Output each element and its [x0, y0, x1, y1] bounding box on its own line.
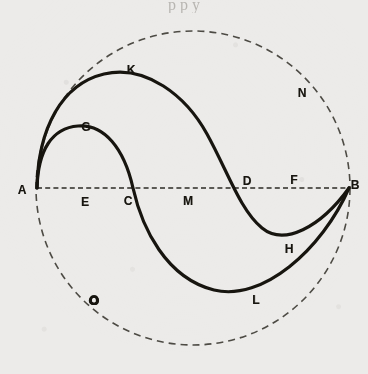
point-label-N: N: [298, 87, 307, 99]
point-label-K: K: [127, 64, 136, 76]
point-label-F: F: [290, 174, 297, 186]
point-label-C: C: [124, 195, 133, 207]
geometric-figure: [0, 0, 368, 374]
point-label-M: M: [183, 195, 193, 207]
point-label-D: D: [243, 175, 252, 187]
point-label-A: A: [18, 184, 27, 196]
point-label-B: B: [351, 179, 360, 191]
figure-page: p p y A B C D E F G H K L M N O: [0, 0, 368, 374]
point-label-O: O: [89, 294, 99, 307]
point-label-G: G: [81, 121, 90, 133]
point-label-E: E: [81, 196, 89, 208]
point-label-L: L: [252, 294, 259, 306]
point-label-H: H: [285, 243, 294, 255]
